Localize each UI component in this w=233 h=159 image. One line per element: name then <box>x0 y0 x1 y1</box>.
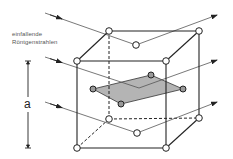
incident-rays-label-line1: einfallende <box>12 31 42 39</box>
atom-node <box>90 86 96 92</box>
atom-node <box>163 58 170 65</box>
atom-node <box>196 28 203 35</box>
atom-node <box>148 72 154 78</box>
atom-node <box>106 28 113 35</box>
lattice-plane <box>93 75 183 104</box>
atom-node <box>133 42 140 49</box>
atom-node <box>74 58 81 65</box>
atom-node <box>163 145 170 152</box>
unit-cell-diagram <box>0 0 233 159</box>
atom-node <box>74 145 81 152</box>
incident-rays-label-line2: Röntgenstrahlen <box>12 39 58 47</box>
atom-node <box>196 115 203 122</box>
incident-arrow-icons <box>50 15 62 108</box>
lattice-constant-label: a <box>24 97 31 111</box>
atom-node <box>106 116 113 123</box>
atom-node <box>134 130 141 137</box>
atom-node <box>180 86 186 92</box>
atom-node <box>118 101 124 107</box>
